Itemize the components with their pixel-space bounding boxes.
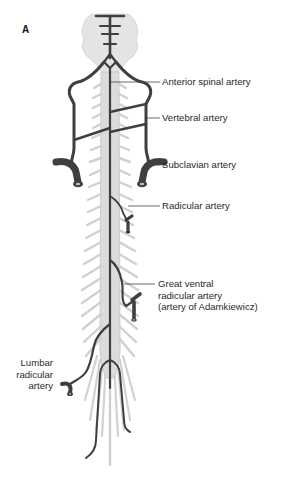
diagram-illustration (0, 0, 283, 480)
label-lumbar-radicular-artery: Lumbar radicular artery (16, 357, 53, 392)
spinal-cord-arterial-supply-diagram: A Anterior spinal artery Vertebral arter… (0, 0, 283, 480)
nerve-roots-left (82, 84, 101, 356)
label-anterior-spinal-artery: Anterior spinal artery (162, 76, 251, 88)
label-great-ventral-radicular-artery: Great ventral radicular artery (artery o… (158, 278, 258, 313)
subclavian-artery-right (142, 161, 164, 182)
label-line-3: artery (16, 380, 53, 392)
label-line-1: Lumbar (16, 357, 53, 369)
label-line-3: (artery of Adamkiewicz) (158, 301, 258, 313)
subclavian-artery-left (56, 161, 78, 182)
label-vertebral-artery: Vertebral artery (162, 112, 228, 124)
label-radicular-artery: Radicular artery (162, 200, 230, 212)
label-line-2: radicular (16, 369, 53, 381)
label-line-1: Great ventral (158, 278, 258, 290)
panel-label: A (22, 24, 29, 35)
label-subclavian-artery: Subclavian artery (162, 159, 236, 171)
label-line-2: radicular artery (158, 290, 258, 302)
